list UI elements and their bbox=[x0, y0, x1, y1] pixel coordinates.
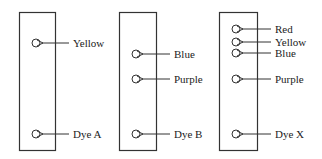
spot-circle-icon bbox=[232, 75, 240, 83]
spot-circle-icon bbox=[132, 75, 140, 83]
spot-label: Blue bbox=[174, 48, 195, 60]
spot-label: Blue bbox=[275, 47, 296, 59]
spot-circle-icon bbox=[232, 38, 240, 46]
spot-circle-icon bbox=[32, 130, 40, 138]
spot-circle-icon bbox=[32, 39, 40, 47]
chromatography-diagram: YellowDye ABluePurpleDye BRedYellowBlueP… bbox=[0, 0, 322, 159]
strip-a: YellowDye A bbox=[20, 13, 105, 151]
spot-label: Purple bbox=[275, 73, 304, 85]
spot-circle-icon bbox=[232, 49, 240, 57]
spot-circle-icon bbox=[232, 130, 240, 138]
spot-label: Dye X bbox=[275, 128, 304, 140]
spot-label: Purple bbox=[174, 73, 203, 85]
spot-label: Dye A bbox=[73, 128, 101, 140]
spot-label: Dye B bbox=[174, 128, 202, 140]
spot-circle-icon bbox=[132, 130, 140, 138]
spot-circle-icon bbox=[132, 50, 140, 58]
strip-x: RedYellowBluePurpleDye X bbox=[220, 13, 307, 151]
spot-label: Yellow bbox=[73, 37, 104, 49]
strip-b: BluePurpleDye B bbox=[120, 13, 203, 151]
spot-label: Red bbox=[275, 23, 293, 35]
spot-circle-icon bbox=[232, 25, 240, 33]
